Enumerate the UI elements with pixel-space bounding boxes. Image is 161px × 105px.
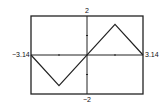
y-max-label: 2 [85, 7, 89, 14]
y-min-label: −2 [83, 96, 91, 103]
x-max-label: 3.14 [145, 51, 159, 58]
x-min-label: −3.14 [12, 51, 30, 58]
